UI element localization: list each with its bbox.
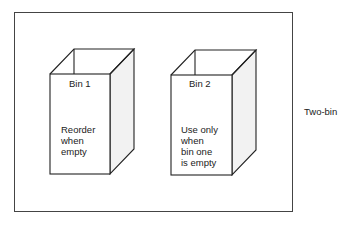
bin-2-text-line: Use only <box>181 124 218 135</box>
bin-1-text-line: when <box>61 135 95 146</box>
bin-2-title: Bin 2 <box>189 78 211 89</box>
bin-1-text-line: empty <box>61 146 95 157</box>
bin-2-text-line: when <box>181 135 218 146</box>
bin-1-text-line: Reorder <box>61 124 95 135</box>
bin-1-text: Reorder when empty <box>61 124 95 157</box>
bin-2-text: Use only when bin one is empty <box>181 124 218 168</box>
bin-2-text-line: bin one <box>181 146 218 157</box>
bin-1-title: Bin 1 <box>69 78 91 89</box>
bin-2-text-line: is empty <box>181 157 218 168</box>
side-label: Two-bin <box>304 106 337 117</box>
